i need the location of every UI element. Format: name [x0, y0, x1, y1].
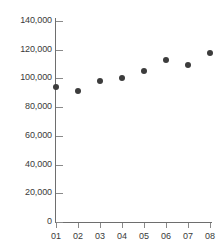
plot-area: 020,00040,00060,00080,000100,000120,0001…	[0, 0, 220, 251]
data-point	[97, 78, 103, 84]
data-point	[119, 75, 125, 81]
data-point	[53, 84, 59, 90]
x-axis-label: 02	[68, 231, 88, 241]
data-point	[141, 68, 147, 74]
y-axis-label: 80,000	[4, 101, 52, 111]
data-point	[163, 57, 169, 63]
y-axis-tick	[56, 78, 63, 79]
y-axis-label: 120,000	[4, 44, 52, 54]
x-axis-label: 08	[200, 231, 220, 241]
x-axis-label: 05	[134, 231, 154, 241]
y-axis-label: 0	[4, 216, 52, 226]
x-axis-tick	[166, 223, 167, 228]
y-axis-tick	[56, 193, 63, 194]
y-axis-label: 100,000	[4, 72, 52, 82]
y-axis-label: 20,000	[4, 187, 52, 197]
x-axis-label: 06	[156, 231, 176, 241]
data-point	[75, 88, 81, 94]
data-point	[207, 50, 213, 56]
scatter-chart: 020,00040,00060,00080,000100,000120,0001…	[0, 0, 220, 251]
x-axis-label: 07	[178, 231, 198, 241]
x-axis-tick	[100, 223, 101, 228]
x-axis-tick	[56, 223, 57, 228]
y-axis-tick	[56, 222, 63, 223]
x-axis-label: 03	[90, 231, 110, 241]
x-axis-tick	[188, 223, 189, 228]
x-axis-label: 04	[112, 231, 132, 241]
x-axis-tick	[144, 223, 145, 228]
x-axis-label: 01	[46, 231, 66, 241]
x-axis-tick	[210, 223, 211, 228]
y-axis-label: 140,000	[4, 15, 52, 25]
y-axis-tick	[56, 50, 63, 51]
x-axis-tick	[122, 223, 123, 228]
x-axis-tick	[78, 223, 79, 228]
data-point	[185, 62, 191, 68]
y-axis-tick	[56, 136, 63, 137]
y-axis-tick	[56, 107, 63, 108]
y-axis-label: 60,000	[4, 130, 52, 140]
y-axis-tick	[56, 165, 63, 166]
y-axis-tick	[56, 21, 63, 22]
y-axis-label: 40,000	[4, 159, 52, 169]
